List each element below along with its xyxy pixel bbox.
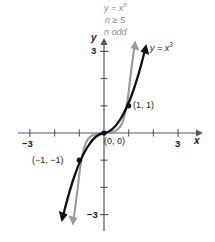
point-label-neg1-neg1: (−1, −1) xyxy=(32,156,64,165)
point-label-1-1: (1, 1) xyxy=(133,101,154,110)
point-marker-1-1 xyxy=(126,103,131,108)
family-note-line1-exponent: n xyxy=(123,1,127,8)
family-note-line1: y = xn xyxy=(104,4,127,13)
x-axis-label: x xyxy=(194,136,200,146)
cubic-curve-label-exponent: 3 xyxy=(169,41,173,48)
point-label-origin: (0, 0) xyxy=(104,137,125,146)
curve-x-to-the-n-arrow-up xyxy=(131,41,140,51)
y-tick-label-3: 3 xyxy=(91,46,96,56)
y-axis-arrowhead xyxy=(100,38,107,45)
point-marker-neg1-neg1 xyxy=(77,158,82,163)
family-note-line1-text: y = x xyxy=(104,3,123,13)
point-marker-origin xyxy=(101,130,106,135)
family-note-line2: n ≥ 5 xyxy=(105,16,125,25)
y-tick-label-neg3: −3 xyxy=(87,210,98,220)
family-note-line3: n odd xyxy=(104,28,127,37)
x-tick-label-3: 3 xyxy=(175,139,180,149)
cubic-curve-label: y = x3 xyxy=(150,44,173,53)
cubic-curve-label-text: y = x xyxy=(150,43,169,53)
x-tick-label-neg3: −3 xyxy=(22,139,33,149)
graph-figure: y = xn n ≥ 5 n odd y = x3 y x 3 −3 3 −3 … xyxy=(0,0,215,242)
curve-x-to-the-n-arrow-down xyxy=(68,215,77,225)
y-axis-label: y xyxy=(91,33,97,43)
